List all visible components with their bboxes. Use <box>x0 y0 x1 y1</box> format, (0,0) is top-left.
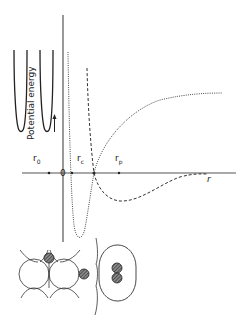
adatom-hollow-site <box>44 253 54 263</box>
adatom-side <box>79 269 89 279</box>
tick-r0 <box>48 172 51 175</box>
molecule-atom-bottom <box>112 273 122 283</box>
molecule-atom-top <box>112 263 122 273</box>
tick-label-r0: r0 <box>33 154 41 165</box>
dashed-potential-curve <box>87 68 208 201</box>
origin-label: 0 <box>60 169 66 178</box>
diagram-canvas: Potential energy 0 r0 rc rp r <box>0 0 248 327</box>
harmonic-well-2 <box>40 50 53 132</box>
surface-brace <box>95 238 98 315</box>
x-axis-label: r <box>207 175 211 184</box>
tick-label-rc: rc <box>77 154 84 165</box>
tick-label-rp: rp <box>115 154 123 165</box>
arrow-up-icon <box>53 114 57 132</box>
y-axis-label: Potential energy <box>26 66 36 140</box>
tick-rp <box>118 172 120 174</box>
